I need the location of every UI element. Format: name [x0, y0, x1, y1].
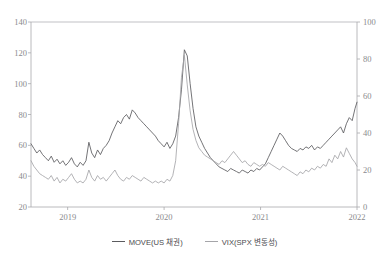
- y-left-tick-60: 60: [0, 140, 27, 150]
- y-left-tick-100: 100: [0, 79, 27, 89]
- y-left-tick-140: 140: [0, 17, 27, 27]
- x-tick-2021: 2021: [246, 212, 276, 222]
- y-right-tick-60: 60: [363, 91, 389, 101]
- y-right-tick-0: 0: [363, 202, 389, 212]
- chart-figure: MOVE(US 채권) VIX(SPX 변동성) 204060801001201…: [0, 0, 389, 258]
- y-right-tick-100: 100: [363, 17, 389, 27]
- legend-swatch-vix-icon: [205, 241, 218, 242]
- y-left-tick-20: 20: [0, 202, 27, 212]
- chart-legend: MOVE(US 채권) VIX(SPX 변동성): [0, 236, 389, 247]
- legend-item-move[interactable]: MOVE(US 채권): [112, 236, 183, 247]
- y-left-tick-40: 40: [0, 171, 27, 181]
- x-tick-2020: 2020: [149, 212, 179, 222]
- y-left-tick-120: 120: [0, 48, 27, 58]
- series-line-move: [31, 50, 357, 173]
- legend-swatch-move-icon: [112, 241, 125, 242]
- legend-label-vix: VIX(SPX 변동성): [222, 236, 278, 247]
- y-left-tick-80: 80: [0, 110, 27, 120]
- y-right-tick-20: 20: [363, 165, 389, 175]
- legend-label-move: MOVE(US 채권): [129, 236, 183, 247]
- x-tick-2019: 2019: [53, 212, 83, 222]
- legend-item-vix[interactable]: VIX(SPX 변동성): [205, 236, 278, 247]
- y-right-tick-80: 80: [363, 54, 389, 64]
- x-tick-2022: 2022: [342, 212, 372, 222]
- y-right-tick-40: 40: [363, 128, 389, 138]
- data-series-group: [31, 50, 357, 183]
- series-line-vix: [31, 55, 357, 183]
